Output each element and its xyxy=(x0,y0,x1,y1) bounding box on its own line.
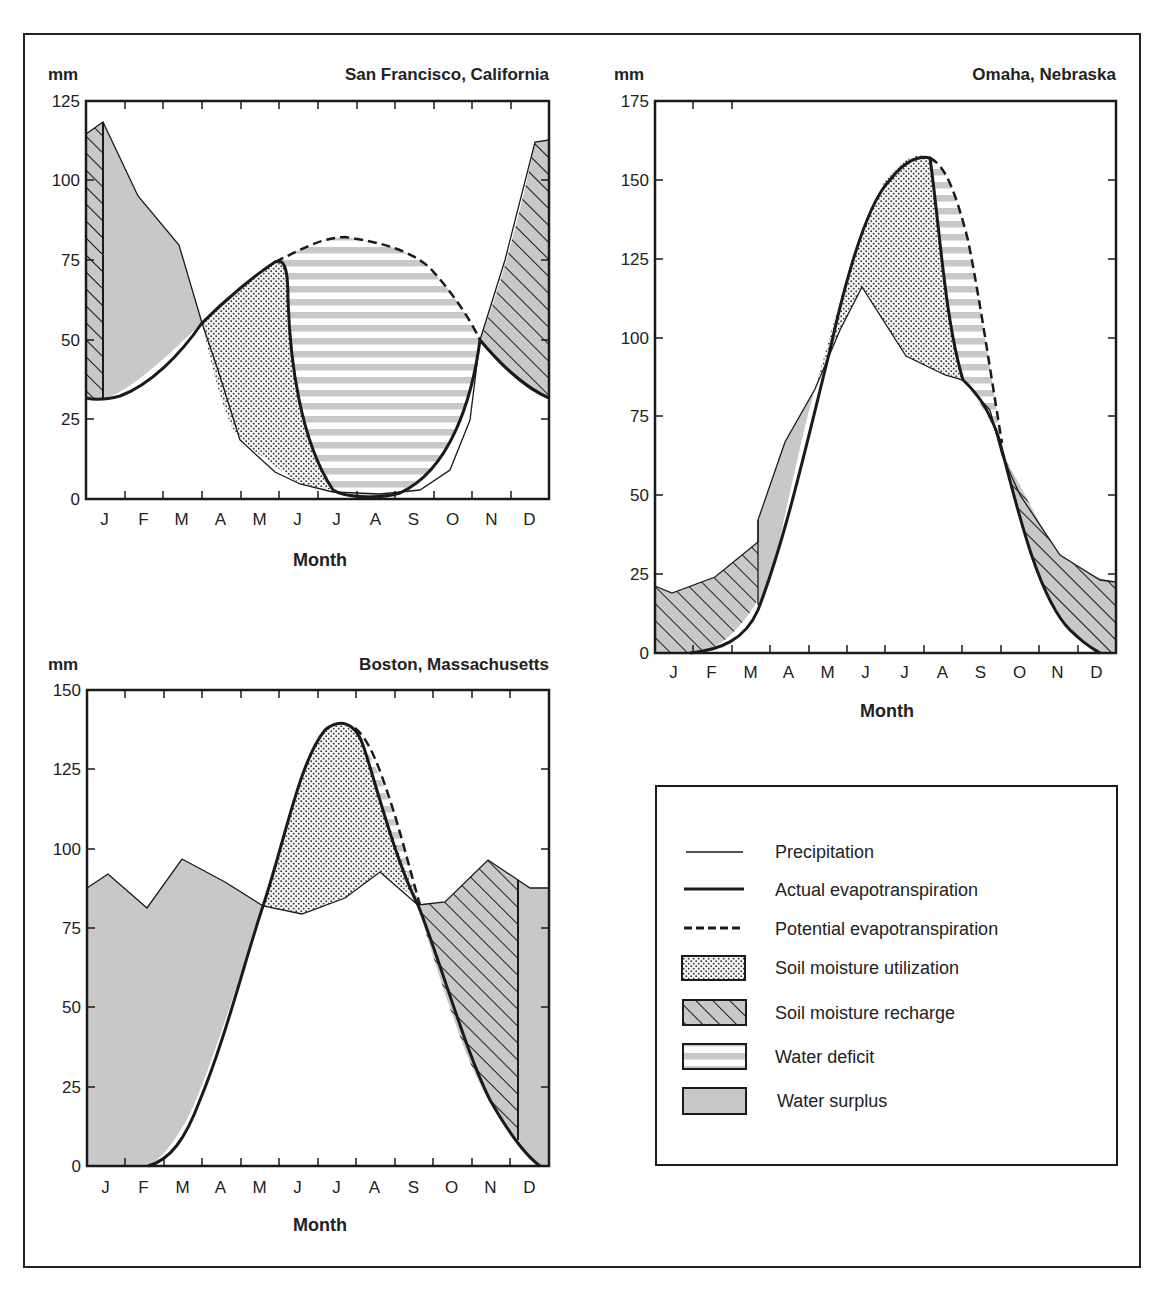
svg-text:J: J xyxy=(861,663,871,682)
svg-text:75: 75 xyxy=(62,919,81,938)
svg-text:125: 125 xyxy=(52,92,80,111)
legend-item-utilization: Soil moisture utilization xyxy=(682,956,959,980)
svg-text:J: J xyxy=(293,510,303,529)
surplus-region xyxy=(87,859,263,1166)
svg-text:N: N xyxy=(484,1178,497,1197)
svg-text:100: 100 xyxy=(52,171,80,190)
x-axis-label: Month xyxy=(293,550,347,570)
svg-text:150: 150 xyxy=(53,681,81,700)
y-unit-label: mm xyxy=(48,655,78,674)
svg-text:J: J xyxy=(332,1178,342,1197)
svg-text:O: O xyxy=(1013,663,1027,682)
svg-text:A: A xyxy=(783,663,795,682)
surplus-region xyxy=(518,880,549,1166)
svg-text:N: N xyxy=(485,510,498,529)
svg-text:Water surplus: Water surplus xyxy=(777,1091,887,1111)
svg-text:M: M xyxy=(820,663,835,682)
gray-fill-icon xyxy=(683,1088,746,1114)
svg-text:100: 100 xyxy=(53,840,81,859)
svg-text:J: J xyxy=(332,510,342,529)
svg-text:50: 50 xyxy=(61,331,80,350)
legend-item-recharge: Soil moisture recharge xyxy=(683,1000,955,1025)
svg-text:0: 0 xyxy=(72,1157,81,1176)
chart-omaha: mm Omaha, Nebraska 0 25 50 xyxy=(614,65,1117,721)
svg-text:M: M xyxy=(252,510,267,529)
svg-text:50: 50 xyxy=(630,486,649,505)
y-unit-label: mm xyxy=(614,65,644,84)
svg-text:125: 125 xyxy=(53,760,81,779)
svg-text:D: D xyxy=(523,1178,536,1197)
svg-text:F: F xyxy=(138,1178,149,1197)
svg-text:125: 125 xyxy=(621,250,649,269)
svg-text:S: S xyxy=(408,1178,420,1197)
svg-text:D: D xyxy=(523,510,536,529)
svg-text:75: 75 xyxy=(630,407,649,426)
svg-text:M: M xyxy=(743,663,758,682)
x-tick-labels: J F M A M J J A S O N D xyxy=(669,663,1103,682)
svg-text:Water deficit: Water deficit xyxy=(775,1047,874,1067)
svg-text:Potential evapotranspiration: Potential evapotranspiration xyxy=(775,919,998,939)
svg-text:50: 50 xyxy=(62,998,81,1017)
svg-text:A: A xyxy=(215,510,227,529)
y-tick-labels: 0 25 50 75 100 125 150 175 xyxy=(621,92,649,663)
svg-text:Precipitation: Precipitation xyxy=(775,842,874,862)
y-unit-label: mm xyxy=(48,65,78,84)
legend-item-surplus: Water surplus xyxy=(683,1088,887,1114)
svg-text:150: 150 xyxy=(621,171,649,190)
svg-text:25: 25 xyxy=(62,1078,81,1097)
chart-title: Omaha, Nebraska xyxy=(972,65,1116,84)
recharge-region xyxy=(655,542,758,653)
svg-text:A: A xyxy=(937,663,949,682)
legend: Precipitation Actual evapotranspiration … xyxy=(656,786,1117,1165)
striped-fill-icon xyxy=(683,1044,746,1069)
svg-text:175: 175 xyxy=(621,92,649,111)
y-tick-labels: 0 25 50 75 100 125 xyxy=(52,92,80,509)
svg-text:A: A xyxy=(369,1178,381,1197)
svg-text:M: M xyxy=(174,510,189,529)
svg-text:0: 0 xyxy=(640,644,649,663)
svg-text:A: A xyxy=(215,1178,227,1197)
chart-title: Boston, Massachusetts xyxy=(359,655,549,674)
chart-boston: mm Boston, Massachusetts 0 25 50 xyxy=(48,655,549,1235)
svg-text:J: J xyxy=(293,1178,303,1197)
svg-text:D: D xyxy=(1090,663,1103,682)
svg-text:J: J xyxy=(900,663,910,682)
svg-text:100: 100 xyxy=(621,329,649,348)
x-axis-label: Month xyxy=(860,701,914,721)
surplus-region xyxy=(103,122,202,398)
svg-text:M: M xyxy=(252,1178,267,1197)
hatched-fill-icon xyxy=(683,1000,746,1025)
svg-text:N: N xyxy=(1051,663,1064,682)
svg-text:F: F xyxy=(138,510,149,529)
svg-text:75: 75 xyxy=(61,251,80,270)
svg-text:25: 25 xyxy=(61,410,80,429)
recharge-region xyxy=(480,140,549,398)
svg-text:25: 25 xyxy=(630,565,649,584)
dotted-fill-icon xyxy=(682,956,745,980)
svg-text:J: J xyxy=(669,663,679,682)
svg-text:F: F xyxy=(706,663,717,682)
svg-text:Soil moisture utilization: Soil moisture utilization xyxy=(775,958,959,978)
recharge-region xyxy=(418,860,518,1140)
climograph-figure: mm San Francisco, California xyxy=(0,0,1163,1292)
svg-text:Soil moisture recharge: Soil moisture recharge xyxy=(775,1003,955,1023)
y-tick-labels: 0 25 50 75 100 125 150 xyxy=(53,681,81,1176)
chart-title: San Francisco, California xyxy=(345,65,550,84)
svg-text:O: O xyxy=(445,1178,459,1197)
chart-san-francisco: mm San Francisco, California xyxy=(48,65,550,570)
x-axis-label: Month xyxy=(293,1215,347,1235)
svg-text:A: A xyxy=(370,510,382,529)
svg-text:J: J xyxy=(100,510,110,529)
legend-item-deficit: Water deficit xyxy=(683,1044,874,1069)
svg-text:0: 0 xyxy=(71,490,80,509)
svg-text:S: S xyxy=(975,663,987,682)
svg-text:S: S xyxy=(408,510,420,529)
svg-text:Actual evapotranspiration: Actual evapotranspiration xyxy=(775,880,978,900)
x-tick-labels: J F M A M J J A S O N D xyxy=(100,510,536,529)
svg-text:J: J xyxy=(101,1178,111,1197)
x-tick-labels: J F M A M J J A S O N D xyxy=(101,1178,536,1197)
svg-text:O: O xyxy=(446,510,460,529)
svg-text:M: M xyxy=(175,1178,190,1197)
